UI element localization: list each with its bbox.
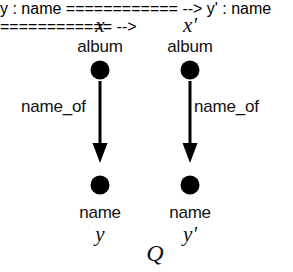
- edge-label-name-of-right: name_of: [194, 98, 259, 115]
- node-type-name-right: name: [169, 204, 211, 221]
- graph-node-x: [91, 61, 110, 80]
- node-type-album-right: album: [167, 38, 212, 55]
- graph-node-x-prime: [181, 61, 200, 80]
- graph-edge-name-of-right: [181, 81, 199, 165]
- node-variable-x: x: [95, 15, 104, 36]
- diagram-canvas: y : name ============ --> x album name_o…: [0, 0, 293, 272]
- node-variable-x-prime: x': [183, 15, 197, 36]
- node-variable-y: y: [95, 224, 104, 245]
- node-type-album-left: album: [77, 38, 122, 55]
- node-type-name-left: name: [79, 204, 121, 221]
- figure-caption-q: Q: [146, 241, 163, 265]
- node-variable-y-prime: y': [183, 224, 197, 245]
- graph-node-y-prime: [181, 176, 200, 195]
- graph-edge-name-of-left: [91, 81, 109, 165]
- edge-label-name-of-left: name_of: [21, 98, 86, 115]
- graph-node-y: [91, 176, 110, 195]
